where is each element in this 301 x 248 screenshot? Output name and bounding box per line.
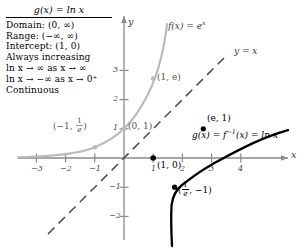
- label-point-neg1-over-e: (−1, 1e): [53, 117, 87, 133]
- fraction-one-over-e-b: 1e: [182, 181, 189, 197]
- label-point-1-over-e-neg1: (1e, −1): [178, 181, 212, 197]
- label-neg1-prefix: (−1,: [53, 121, 76, 131]
- y-tick-label-neg1: −1: [109, 183, 121, 191]
- label-point-1-0: (1, 0): [157, 161, 181, 170]
- y-tick-label-1: 1: [113, 124, 118, 132]
- x-axis-arrow: [281, 155, 288, 161]
- fraction-one-over-e-a: 1e: [76, 117, 83, 133]
- marker-point-1-0: [150, 155, 156, 161]
- x-tick-label-3: 3: [209, 165, 214, 173]
- fraction-denominator: e: [182, 190, 189, 198]
- marker-point-1-over-e-neg1: [172, 185, 177, 190]
- marker-point-0-1: [122, 127, 127, 132]
- marker-point-1-e: [151, 76, 156, 81]
- x-tick-label-4: 4: [238, 165, 243, 173]
- natural-log-curve-label: g(x) = f−1(x) = ln x: [192, 131, 278, 140]
- x-tick-label-neg3: −3: [31, 165, 43, 173]
- label-neg1-suffix: ): [83, 121, 87, 131]
- x-tick-label-neg2: −2: [60, 165, 72, 173]
- y-axis-arrow: [121, 16, 127, 23]
- x-axis-name: x: [291, 150, 296, 160]
- marker-point-neg1-over-e: [93, 145, 98, 150]
- label-point-e-1: (e, 1): [207, 114, 231, 123]
- identity-line-label: y = x: [234, 47, 257, 56]
- y-tick-label-3: 3: [113, 66, 118, 74]
- exponential-curve-label-text: f(x) = e: [168, 21, 202, 31]
- identity-line-curve: [48, 58, 224, 234]
- label-1overe-prefix: (: [178, 185, 182, 195]
- y-tick-label-neg2: −2: [109, 212, 121, 220]
- label-point-0-1: (0, 1): [128, 122, 152, 131]
- y-axis-name: y: [128, 17, 133, 27]
- exponential-curve-label-exponent: x: [202, 19, 206, 27]
- log-label-inverse-exponent: −1: [226, 128, 236, 136]
- exponential-curve-label: f(x) = ex: [168, 22, 206, 31]
- logarithm-figure: g(x) = ln x Domain: (0, ∞) Range: (−∞, ∞…: [0, 0, 301, 248]
- fraction-denominator: e: [76, 126, 83, 134]
- label-1overe-suffix: , −1): [189, 185, 212, 195]
- log-label-tail: (x) = ln x: [236, 130, 278, 140]
- log-label-g: g(x) = f: [192, 130, 226, 140]
- x-tick-label-1: 1: [151, 165, 156, 173]
- label-point-1-e: (1, e): [157, 73, 181, 82]
- x-tick-label-neg1: −1: [89, 165, 101, 173]
- y-tick-label-2: 2: [113, 95, 118, 103]
